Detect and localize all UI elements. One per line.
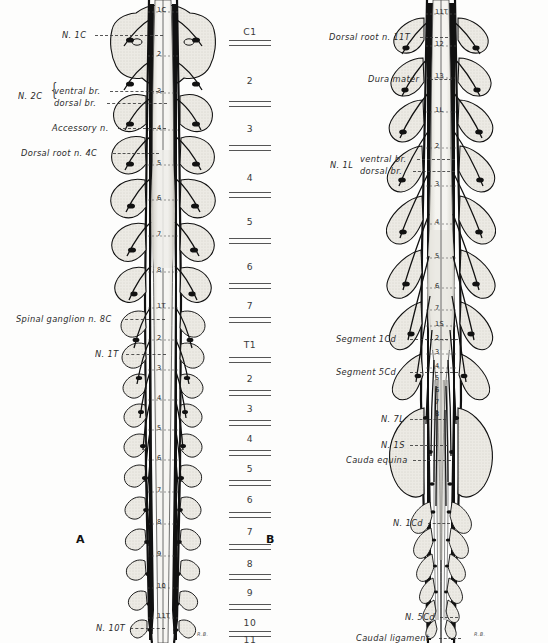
vertebra-separator [229, 390, 271, 396]
label-n-1cd: N. 1Cd [393, 518, 423, 529]
cord-segment-number: 4 [435, 362, 439, 370]
vertebra-separator [229, 604, 271, 610]
leader-n-2c-dorsal-br [107, 103, 167, 104]
cord-segment-number: 11T [435, 8, 448, 16]
cord-segment-number: 12 [435, 40, 444, 48]
vertebra-separator [229, 283, 271, 289]
vertebra-separator [229, 357, 271, 363]
cord-segment-number: 7 [157, 230, 161, 238]
vertebra-separator [229, 450, 271, 456]
vertebra-label: 9 [230, 587, 270, 598]
spinal-column-drawing-a [108, 0, 218, 643]
cord-segment-number: 1L [435, 106, 443, 114]
vertebra-label: 6 [230, 261, 270, 272]
cord-segment-number: 8 [157, 266, 161, 274]
vertebra-label: 2 [230, 75, 270, 86]
panel-letter-b: B [266, 533, 274, 546]
leader-n-1cd [428, 523, 450, 524]
cord-segment-number: 8 [157, 518, 161, 526]
leader-dura-mater [430, 79, 452, 80]
cord-segment-number: 3 [435, 348, 439, 356]
leader-n-7l [410, 419, 446, 420]
vertebra-separator [229, 238, 271, 244]
cord-segment-number: 2 [435, 334, 439, 342]
vertebra-label: 10 [230, 617, 270, 628]
label-n-2c-ventral-br: ventral br. [54, 86, 100, 97]
artist-signature-a: R.B. [197, 631, 208, 637]
label-n-1l-dorsal-br: dorsal br. [360, 166, 402, 177]
brace-n2c: { [51, 80, 58, 99]
vertebra-separator [229, 101, 271, 107]
label-n-2c: N. 2C [18, 91, 42, 102]
cord-segment-number: 2 [157, 334, 161, 342]
cord-segment-number: 5 [157, 424, 161, 432]
leader-cauda-equina [413, 460, 451, 461]
vertebra-label: 5 [230, 216, 270, 227]
cord-segment-number: 7 [157, 486, 161, 494]
label-dorsal-root-n-4c: Dorsal root n. 4C [21, 148, 97, 159]
label-n-2c-dorsal-br: dorsal br. [54, 98, 96, 109]
artist-signature-b: R.B. [474, 631, 485, 637]
label-accessory-n: Accessory n. [52, 123, 109, 134]
vertebra-separator [229, 192, 271, 198]
cord-segment-number: 1S [435, 320, 444, 328]
label-n-1s: N. 1S [381, 440, 405, 451]
cord-segment-number: 2 [157, 50, 161, 58]
vertebra-label: 3 [230, 123, 270, 134]
cord-segment-number: 6 [435, 386, 439, 394]
cord-segment-number: 1T [157, 302, 166, 310]
cord-segment-number: 5 [157, 159, 161, 167]
cord-segment-number: 2 [435, 142, 439, 150]
vertebra-label: C1 [230, 26, 270, 37]
vertebra-separator [229, 574, 271, 580]
cord-segment-number: 7 [435, 304, 439, 312]
vertebra-label: 4 [230, 433, 270, 444]
label-n-1t: N. 1T [95, 349, 119, 360]
cord-segment-number: 7 [435, 398, 439, 406]
cord-segment-number: 9 [157, 550, 161, 558]
vertebra-label: T1 [230, 339, 270, 350]
cord-segment-number: 3 [157, 364, 161, 372]
vertebra-label: 2 [230, 373, 270, 384]
label-n-7l: N. 7L [381, 414, 404, 425]
leader-dorsal-root-n-4c [113, 153, 159, 154]
leader-n-1c [95, 35, 163, 36]
cord-segment-number: 4 [435, 218, 439, 226]
label-dorsal-root-n-11t: Dorsal root n. 11T [329, 32, 410, 43]
label-n-5cd: N. 5Cd [405, 612, 435, 623]
vertebra-separator [229, 40, 271, 46]
vertebra-separator [229, 145, 271, 151]
vertebra-label: 7 [230, 300, 270, 311]
vertebra-scale-a: C1234567T1234567891011 [228, 0, 274, 643]
leader-spinal-ganglion-n8c [125, 319, 165, 320]
vertebra-separator [229, 544, 271, 550]
vertebra-label: 4 [230, 172, 270, 183]
leader-n-1l-ventral-br [417, 159, 455, 160]
leader-accessory-n [118, 128, 166, 129]
leader-n-1t [126, 354, 166, 355]
cord-segment-number: 6 [157, 454, 161, 462]
vertebra-separator [229, 317, 271, 323]
leader-n-1s [410, 445, 448, 446]
label-n-1l-ventral-br: ventral br. [360, 154, 406, 165]
vertebra-label: 7 [230, 526, 270, 537]
vertebra-label: 5 [230, 463, 270, 474]
panel-a: 1C23456781T234567891011T N. 1CN. 2Cventr… [0, 0, 274, 643]
leader-n-5cd [440, 617, 458, 618]
leader-n-10t [130, 628, 165, 629]
label-n-1l: N. 1L [330, 160, 353, 171]
label-caudal-ligament: Caudal ligament [356, 633, 429, 643]
label-spinal-ganglion-n8c: Spinal ganglion n. 8C [16, 314, 112, 325]
cord-segment-number: 4 [157, 394, 161, 402]
vertebra-separator [229, 420, 271, 426]
panel-b: 11T12131L2345671S2345678 Dorsal root n. … [274, 0, 548, 643]
panel-letter-a: A [76, 533, 85, 546]
vertebra-separator [229, 480, 271, 486]
label-segment-1cd: Segment 1Cd [336, 334, 396, 345]
label-segment-5cd: Segment 5Cd [336, 367, 396, 378]
vertebra-label: 3 [230, 403, 270, 414]
leader-segment-1cd [410, 339, 458, 340]
cord-segment-number: 6 [435, 282, 439, 290]
leader-caudal-ligament [439, 638, 461, 639]
cord-segment-number: 6 [157, 194, 161, 202]
